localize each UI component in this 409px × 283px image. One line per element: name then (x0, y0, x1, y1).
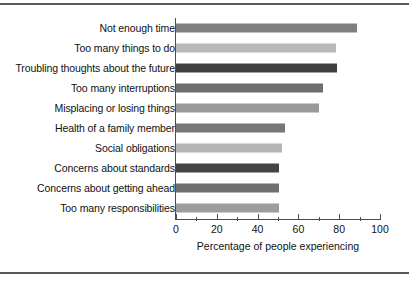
bar-row: Too many things to do (0, 38, 409, 58)
bar (176, 104, 319, 113)
category-label: Not enough time (99, 23, 175, 34)
category-label: Too many interruptions (71, 83, 175, 94)
x-tick-major (298, 214, 299, 220)
category-label: Social obligations (95, 143, 175, 154)
bar (176, 64, 337, 73)
x-tick-label: 20 (211, 223, 223, 235)
bar (176, 24, 357, 33)
bar (176, 84, 323, 93)
x-tick-label: 80 (333, 223, 345, 235)
figure-bottom-rule (0, 272, 409, 274)
x-tick-major (258, 214, 259, 220)
bar-row: Not enough time (0, 18, 409, 38)
x-tick-minor (319, 217, 320, 221)
x-tick-major (176, 214, 177, 220)
x-tick-label: 100 (371, 223, 389, 235)
bar (176, 164, 279, 173)
x-tick-minor (360, 217, 361, 221)
category-label: Health of a family member (55, 123, 175, 134)
x-tick-label: 40 (252, 223, 264, 235)
bar-row: Social obligations (0, 138, 409, 158)
y-axis-line (175, 18, 176, 220)
bar-row: Too many responsibilities (0, 198, 409, 218)
category-label: Misplacing or losing things (55, 103, 175, 114)
category-label: Concerns about standards (54, 163, 175, 174)
bar-rows: Not enough timeToo many things to doTrou… (0, 18, 409, 218)
bar (176, 184, 279, 193)
chart-figure: Not enough timeToo many things to doTrou… (0, 0, 409, 283)
category-label: Too many responsibilities (60, 203, 175, 214)
bar (176, 204, 279, 213)
bar-row: Concerns about standards (0, 158, 409, 178)
bar (176, 144, 282, 153)
bar-row: Concerns about getting ahead (0, 178, 409, 198)
category-label: Troubling thoughts about the future (15, 63, 175, 74)
bar-row: Troubling thoughts about the future (0, 58, 409, 78)
x-tick-minor (196, 217, 197, 221)
plot-area: Not enough timeToo many things to doTrou… (0, 18, 409, 264)
bar (176, 44, 336, 53)
bar (176, 124, 285, 133)
figure-top-rule (0, 3, 409, 5)
bar-row: Too many interruptions (0, 78, 409, 98)
x-axis-title: Percentage of people experiencing (176, 240, 380, 252)
category-label: Concerns about getting ahead (37, 183, 175, 194)
x-tick-major (217, 214, 218, 220)
x-tick-minor (237, 217, 238, 221)
category-label: Too many things to do (74, 43, 175, 54)
x-tick-major (339, 214, 340, 220)
bar-row: Misplacing or losing things (0, 98, 409, 118)
x-tick-label: 60 (293, 223, 305, 235)
x-tick-label: 0 (173, 223, 179, 235)
x-tick-minor (278, 217, 279, 221)
x-tick-major (380, 214, 381, 220)
bar-row: Health of a family member (0, 118, 409, 138)
